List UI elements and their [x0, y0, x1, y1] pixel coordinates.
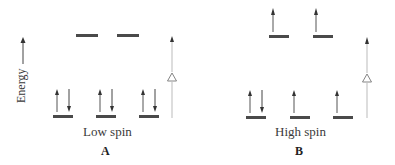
- spin-down-arrow-icon: [110, 89, 114, 112]
- t2g-level: [139, 115, 159, 118]
- eg-level: [76, 34, 98, 37]
- panel-b-upper-electrons: [271, 8, 318, 32]
- panel-a-caption: A: [101, 144, 110, 159]
- t2g-level: [333, 116, 353, 119]
- spin-down-arrow-icon: [260, 90, 264, 113]
- delta-icon: [168, 73, 177, 81]
- eg-level: [313, 35, 333, 38]
- spin-up-arrow-icon: [98, 89, 102, 112]
- t2g-level: [246, 116, 266, 119]
- energy-axis-label: Energy: [14, 69, 29, 103]
- eg-level: [269, 35, 289, 38]
- t2g-level: [96, 115, 116, 118]
- spin-up-arrow-icon: [292, 90, 296, 113]
- low-spin-label: Low spin: [83, 124, 132, 140]
- spin-up-arrow-icon: [248, 90, 252, 113]
- spin-down-arrow-icon: [67, 89, 71, 112]
- panel-b-delta-splitting-arrow: [363, 37, 372, 118]
- panel-b-upper-levels: [269, 35, 333, 38]
- spin-up-arrow-icon: [271, 8, 275, 32]
- panel-a-upper-levels: [76, 34, 139, 37]
- panel-b-caption: B: [295, 144, 303, 159]
- panel-b-lower-electrons: [248, 90, 339, 113]
- spin-up-arrow-icon: [335, 90, 339, 113]
- spin-up-arrow-icon: [314, 8, 318, 32]
- t2g-level: [53, 115, 73, 118]
- crystal-field-diagram: [0, 0, 395, 165]
- spin-up-arrow-icon: [141, 89, 145, 112]
- energy-axis-arrow-icon: [21, 37, 26, 64]
- spin-down-arrow-icon: [153, 89, 157, 112]
- panel-a-lower-levels: [53, 115, 159, 118]
- spin-up-arrow-icon: [55, 89, 59, 112]
- delta-icon: [363, 74, 372, 82]
- t2g-level: [290, 116, 310, 119]
- high-spin-label: High spin: [275, 124, 326, 140]
- panel-b-lower-levels: [246, 116, 353, 119]
- panel-a-delta-splitting-arrow: [168, 36, 177, 118]
- panel-a-electrons: [55, 89, 157, 112]
- eg-level: [117, 34, 139, 37]
